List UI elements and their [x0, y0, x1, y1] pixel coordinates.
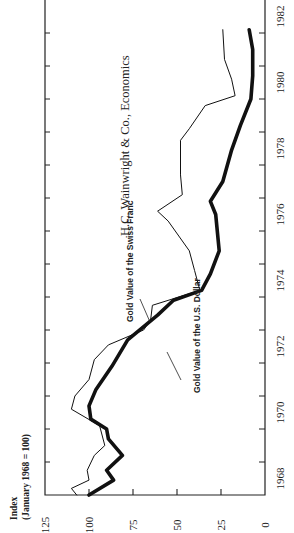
index-tick-label: 0	[259, 522, 271, 528]
index-tick-label: 25	[215, 519, 227, 531]
index-tick-label: 50	[171, 519, 183, 531]
index-axis-title-line1: Index	[9, 497, 19, 520]
annotation-us-dollar-leader	[167, 352, 181, 380]
index-tick-label: 125	[39, 516, 51, 533]
series-swiss-franc-line	[71, 30, 235, 495]
series-us-dollar-line	[89, 30, 253, 495]
index-tick-label: 75	[127, 519, 139, 531]
year-axis-ticks: 19681970197219741976197819801982	[45, 6, 286, 490]
rotated-line-chart: 0255075100125 19681970197219741976197819…	[0, 0, 294, 533]
plot-frame-path	[45, 0, 265, 495]
annotation-swiss-franc-leader	[140, 299, 150, 322]
year-tick-label: 1972	[274, 336, 286, 358]
year-tick-label: 1976	[274, 203, 286, 226]
year-tick-label: 1968	[274, 467, 286, 490]
index-axis-title-line2: (January 1968 = 100)	[21, 434, 32, 520]
index-tick-label: 100	[83, 516, 95, 533]
annotation-swiss-franc: Gold Value of the Swiss Franc	[125, 200, 135, 322]
year-tick-label: 1978	[274, 137, 286, 160]
year-tick-label: 1970	[274, 401, 286, 424]
plot-frame	[45, 0, 265, 495]
year-tick-label: 1974	[274, 269, 286, 292]
series-lines	[71, 30, 252, 495]
annotation-us-dollar: Gold Value of the U.S. Dollar	[192, 278, 202, 393]
year-tick-label: 1982	[274, 6, 286, 28]
year-tick-label: 1980	[274, 71, 286, 94]
